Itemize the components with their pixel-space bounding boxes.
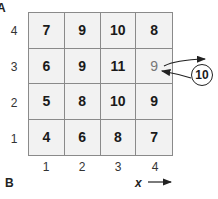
- incoming-arrow-icon: [162, 71, 191, 78]
- arrows-overlay: [0, 0, 218, 199]
- replacement-value-circle: 10: [191, 64, 213, 86]
